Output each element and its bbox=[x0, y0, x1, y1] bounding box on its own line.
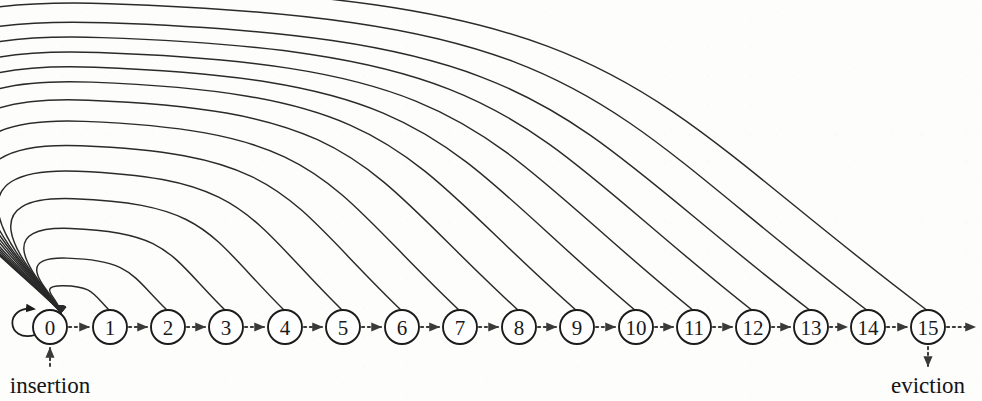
node-label-11: 11 bbox=[684, 316, 704, 340]
node-label-7: 7 bbox=[455, 316, 466, 340]
back-arc-7-to-0 bbox=[0, 121, 460, 313]
back-arc-9-to-0 bbox=[0, 82, 577, 314]
node-label-14: 14 bbox=[858, 316, 880, 340]
back-arc-8-to-0 bbox=[0, 100, 519, 314]
back-arc-5-to-0 bbox=[0, 171, 343, 313]
state-node-3[interactable]: 3 bbox=[209, 310, 243, 344]
lru-state-diagram: insertioneviction 0123456789101112131415 bbox=[0, 0, 982, 401]
node-label-1: 1 bbox=[105, 316, 116, 340]
back-arc-12-to-0 bbox=[0, 37, 753, 313]
node-label-8: 8 bbox=[514, 316, 525, 340]
node-label-13: 13 bbox=[801, 316, 822, 340]
state-node-2[interactable]: 2 bbox=[151, 310, 185, 344]
state-node-7[interactable]: 7 bbox=[443, 310, 477, 344]
endpoint-group: insertioneviction bbox=[10, 347, 966, 398]
state-node-14[interactable]: 14 bbox=[851, 310, 885, 344]
state-node-0[interactable]: 0 bbox=[33, 310, 67, 344]
node-label-6: 6 bbox=[397, 316, 408, 340]
figure-page: insertioneviction 0123456789101112131415 bbox=[0, 0, 982, 401]
state-node-1[interactable]: 1 bbox=[93, 310, 127, 344]
state-node-12[interactable]: 12 bbox=[736, 310, 770, 344]
node-label-15: 15 bbox=[918, 316, 939, 340]
node-label-9: 9 bbox=[572, 316, 583, 340]
back-arc-15-to-0 bbox=[0, 0, 928, 313]
node-label-0: 0 bbox=[45, 316, 56, 340]
insertion-label: insertion bbox=[10, 373, 91, 398]
back-arc-group bbox=[0, 0, 928, 313]
node-label-12: 12 bbox=[743, 316, 764, 340]
state-node-15[interactable]: 15 bbox=[911, 310, 945, 344]
node-label-3: 3 bbox=[221, 316, 232, 340]
state-node-9[interactable]: 9 bbox=[560, 310, 594, 344]
state-node-8[interactable]: 8 bbox=[502, 310, 536, 344]
node-label-2: 2 bbox=[163, 316, 174, 340]
back-arc-14-to-0 bbox=[0, 3, 868, 313]
state-node-13[interactable]: 13 bbox=[794, 310, 828, 344]
state-node-5[interactable]: 5 bbox=[326, 310, 360, 344]
node-label-5: 5 bbox=[338, 316, 349, 340]
node-group: 0123456789101112131415 bbox=[33, 310, 945, 344]
state-node-4[interactable]: 4 bbox=[268, 310, 302, 344]
state-node-11[interactable]: 11 bbox=[677, 310, 711, 344]
node-label-10: 10 bbox=[626, 316, 647, 340]
state-node-10[interactable]: 10 bbox=[619, 310, 653, 344]
self-loop-node-0 bbox=[12, 309, 35, 336]
eviction-label: eviction bbox=[891, 373, 966, 398]
self-loop-group bbox=[12, 309, 35, 336]
node-label-4: 4 bbox=[280, 316, 291, 340]
back-arc-11-to-0 bbox=[0, 52, 694, 313]
state-node-6[interactable]: 6 bbox=[385, 310, 419, 344]
